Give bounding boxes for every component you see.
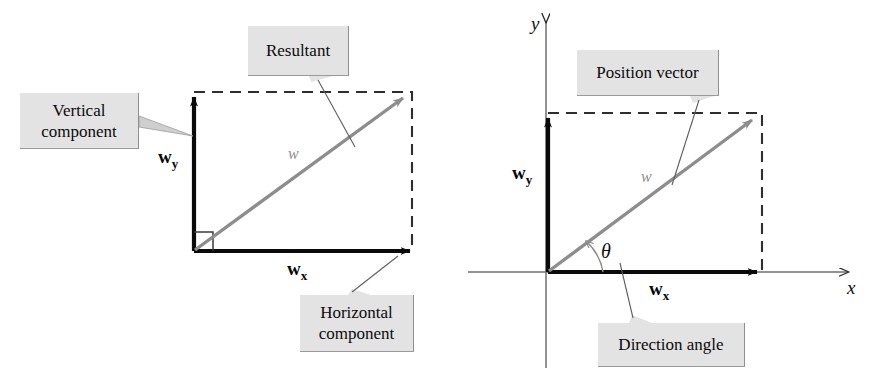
right-wy-subscript: y	[526, 172, 533, 187]
left-resultant-vector	[195, 98, 403, 250]
leader-vertical-component	[139, 116, 193, 136]
leader-resultant-tab	[309, 76, 333, 82]
right-position-vector	[549, 120, 752, 271]
right-wx-subscript: x	[663, 288, 670, 303]
right-wy-label: wy	[512, 162, 532, 188]
left-wx-base: w	[287, 258, 301, 279]
right-y-axis-label: y	[531, 13, 539, 35]
callout-vertical-component: Vertical component	[20, 93, 139, 149]
leader-position-vector-tab	[690, 96, 714, 103]
direction-angle-symbol: θ	[601, 240, 611, 263]
right-wy-base: w	[512, 162, 526, 183]
callout-position-vector-label: Position vector	[596, 62, 698, 83]
callout-horizontal-component-label: Horizontal component	[319, 302, 395, 344]
leader-resultant	[318, 80, 355, 147]
right-wx-base: w	[649, 278, 663, 299]
callout-vertical-component-label: Vertical component	[41, 100, 117, 142]
figure-canvas: Vertical component Resultant Horizontal …	[0, 0, 872, 373]
callout-direction-angle-label: Direction angle	[618, 334, 723, 355]
left-wx-label: wx	[287, 258, 307, 284]
callout-resultant: Resultant	[248, 26, 349, 76]
right-x-axis-label: x	[847, 277, 855, 299]
right-magnitude-label: w	[641, 168, 652, 186]
leader-horizontal-component	[352, 256, 398, 292]
vector-diagrams-svg	[0, 0, 872, 373]
right-wx-label: wx	[649, 278, 669, 304]
callout-horizontal-component: Horizontal component	[300, 295, 414, 352]
callout-direction-angle: Direction angle	[598, 323, 745, 367]
left-wy-subscript: y	[172, 156, 179, 171]
callout-position-vector: Position vector	[577, 50, 719, 96]
left-magnitude-label: w	[288, 145, 299, 163]
left-wy-label: wy	[158, 146, 178, 172]
left-diagram-group	[139, 76, 412, 295]
left-wy-base: w	[158, 146, 172, 167]
callout-resultant-label: Resultant	[266, 40, 330, 61]
left-wx-subscript: x	[301, 268, 308, 283]
